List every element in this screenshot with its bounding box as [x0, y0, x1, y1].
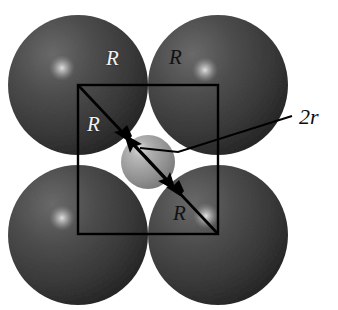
- highlight-bottom-left: [49, 205, 75, 231]
- label-2r: 2r: [299, 106, 319, 128]
- label-R-bottom-right: R: [173, 203, 186, 224]
- highlight-top-right: [192, 57, 218, 83]
- highlight-bottom-right: [193, 203, 219, 229]
- label-R-mid-left: R: [87, 114, 100, 135]
- highlight-top-left: [49, 55, 75, 81]
- label-R-top-right: R: [169, 47, 182, 68]
- label-R-top-left: R: [106, 48, 119, 69]
- figure-canvas: R R R R 2r: [0, 0, 338, 310]
